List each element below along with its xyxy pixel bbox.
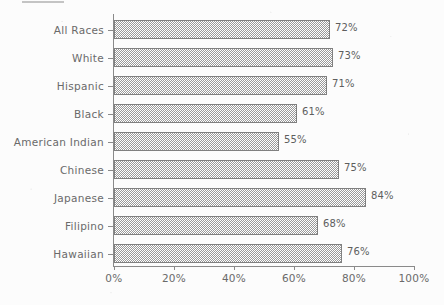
bar	[114, 20, 330, 39]
scan-smudge	[22, 1, 64, 3]
bar	[114, 160, 339, 179]
x-axis-line	[113, 266, 414, 267]
category-label: Chinese	[60, 164, 104, 176]
plot-area: 72%73%71%61%55%75%84%68%76% 0%20%40%60%8…	[114, 14, 414, 266]
bar-value-label: 72%	[335, 22, 358, 33]
bar-value-label: 55%	[284, 134, 307, 145]
bar-value-label: 84%	[371, 190, 394, 201]
category-label: Black	[74, 108, 104, 120]
bar-chart: 72%73%71%61%55%75%84%68%76% 0%20%40%60%8…	[0, 0, 444, 305]
bar-value-label: 75%	[344, 162, 367, 173]
x-axis-tick-label: 40%	[222, 272, 246, 284]
x-axis-tick	[174, 266, 175, 270]
x-axis-tick	[294, 266, 295, 270]
bar-value-label: 68%	[323, 218, 346, 229]
x-axis-tick-label: 60%	[282, 272, 306, 284]
x-axis-tick-label: 100%	[398, 272, 429, 284]
x-axis-tick-label: 80%	[342, 272, 366, 284]
category-label: All Races	[54, 24, 104, 36]
bar-value-label: 76%	[347, 246, 370, 257]
bar	[114, 76, 327, 95]
x-axis-tick-label: 0%	[105, 272, 122, 284]
bar-value-label: 71%	[332, 78, 355, 89]
x-axis-tick	[354, 266, 355, 270]
bar	[114, 216, 318, 235]
bar	[114, 48, 333, 67]
bar-value-label: 73%	[338, 50, 361, 61]
x-axis-tick	[414, 266, 415, 270]
x-axis-tick	[114, 266, 115, 270]
category-label: Filipino	[65, 220, 104, 232]
x-axis-tick-label: 20%	[162, 272, 186, 284]
category-label: Hispanic	[57, 80, 104, 92]
bar	[114, 244, 342, 263]
bar	[114, 188, 366, 207]
bar	[114, 104, 297, 123]
category-label: Hawaiian	[53, 248, 104, 260]
bar-value-label: 61%	[302, 106, 325, 117]
bar	[114, 132, 279, 151]
x-axis-tick	[234, 266, 235, 270]
category-label: White	[72, 52, 104, 64]
category-label: American Indian	[14, 136, 104, 148]
category-label: Japanese	[54, 192, 104, 204]
